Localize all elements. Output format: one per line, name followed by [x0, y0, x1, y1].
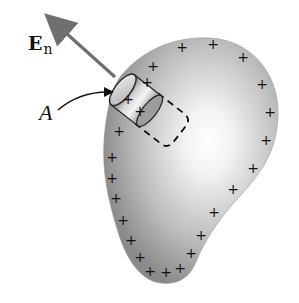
- plus-charge-icon: +: [227, 181, 239, 197]
- plus-charge-icon: +: [207, 36, 219, 52]
- plus-charge-icon: +: [110, 190, 122, 206]
- plus-charge-icon: +: [134, 249, 146, 265]
- plus-charge-icon: +: [113, 123, 125, 139]
- plus-charge-icon: +: [125, 232, 137, 248]
- plus-charge-icon: +: [264, 104, 276, 120]
- plus-charge-icon: +: [208, 204, 220, 220]
- area-pointer-arrow: [58, 92, 108, 110]
- plus-charge-icon: +: [106, 170, 118, 186]
- plus-charge-icon: +: [144, 263, 156, 279]
- gauss-pillbox-diagram: +++++++++++++++++++++++++ En A: [0, 0, 299, 303]
- field-vector-arrow: [56, 24, 115, 77]
- plus-charge-icon: +: [247, 160, 259, 176]
- plus-charge-icon: +: [174, 260, 186, 276]
- plus-charge-icon: +: [134, 103, 146, 119]
- field-label: En: [28, 32, 53, 57]
- plus-charge-icon: +: [256, 76, 268, 92]
- plus-charge-icon: +: [160, 264, 172, 280]
- plus-charge-icon: +: [117, 212, 129, 228]
- plus-charge-icon: +: [185, 245, 197, 261]
- plus-charge-icon: +: [237, 49, 249, 65]
- plus-charge-icon: +: [122, 91, 134, 107]
- plus-charge-icon: +: [106, 149, 118, 165]
- area-label: A: [39, 100, 52, 126]
- plus-charge-icon: +: [147, 58, 159, 74]
- plus-charge-icon: +: [260, 132, 272, 148]
- plus-charge-icon: +: [176, 39, 188, 55]
- plus-charge-icon: +: [141, 74, 153, 90]
- plus-charge-icon: +: [195, 227, 207, 243]
